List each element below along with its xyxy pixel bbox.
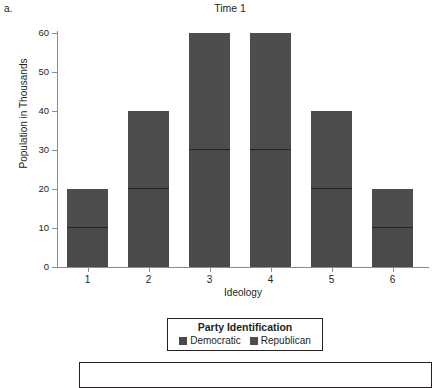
y-axis-tick: 30 — [0, 150, 57, 151]
bar-segment-democratic — [189, 150, 230, 267]
x-tick-label: 1 — [74, 274, 102, 285]
bar-group — [128, 33, 169, 267]
bar-segment-democratic — [67, 228, 108, 267]
x-tick-mark — [271, 267, 272, 272]
y-tick-label: 0 — [44, 260, 49, 273]
bar-group — [67, 33, 108, 267]
bar-segment-republican — [189, 33, 230, 150]
y-tick-label: 30 — [38, 143, 49, 156]
bar-segment-democratic — [128, 189, 169, 267]
legend: Party Identification DemocraticRepublica… — [167, 318, 323, 351]
bar-segment-democratic — [250, 150, 291, 267]
y-tick-label: 50 — [38, 65, 49, 78]
footer-note-box — [79, 362, 432, 388]
x-tick-mark — [88, 267, 89, 272]
bar-segment-republican — [250, 33, 291, 150]
bar-segment-democratic — [372, 228, 413, 267]
x-tick-mark — [149, 267, 150, 272]
y-axis-tick: 20 — [0, 189, 57, 190]
y-axis-tick: 10 — [0, 228, 57, 229]
bar-segment-republican — [67, 189, 108, 228]
legend-swatch-icon — [179, 337, 187, 345]
x-tick-label: 5 — [318, 274, 346, 285]
x-axis-title: Ideology — [57, 287, 429, 298]
y-axis-tick: 50 — [0, 72, 57, 73]
bar-group — [311, 33, 352, 267]
y-tick-label: 20 — [38, 182, 49, 195]
legend-entry: Republican — [250, 335, 311, 347]
x-axis-line — [57, 267, 429, 268]
chart-title: Time 1 — [0, 2, 438, 14]
bar-group — [189, 33, 230, 267]
y-axis-tick: 60 — [0, 33, 57, 34]
y-tick-label: 10 — [38, 221, 49, 234]
x-tick-label: 2 — [135, 274, 163, 285]
legend-items: DemocraticRepublican — [172, 335, 318, 347]
x-tick-label: 4 — [257, 274, 285, 285]
footer-note-text — [80, 363, 431, 367]
y-axis-tick: 40 — [0, 111, 57, 112]
legend-entry-label: Democratic — [190, 335, 241, 347]
x-tick-mark — [393, 267, 394, 272]
x-tick-label: 3 — [196, 274, 224, 285]
legend-entry-label: Republican — [261, 335, 311, 347]
bar-segment-republican — [372, 189, 413, 228]
y-axis-title: Population in Thousands — [18, 29, 29, 199]
bar-group — [250, 33, 291, 267]
legend-swatch-icon — [250, 337, 258, 345]
y-axis-tick: 0 — [0, 267, 57, 268]
y-tick-label: 60 — [38, 26, 49, 39]
x-tick-label: 6 — [379, 274, 407, 285]
legend-entry: Democratic — [179, 335, 241, 347]
y-tick-mark — [52, 267, 57, 268]
x-tick-mark — [210, 267, 211, 272]
bar-segment-republican — [311, 111, 352, 189]
bar-segment-democratic — [311, 189, 352, 267]
plot-area — [57, 33, 423, 267]
legend-title: Party Identification — [172, 321, 318, 334]
bar-group — [372, 33, 413, 267]
bar-segment-republican — [128, 111, 169, 189]
y-tick-label: 40 — [38, 104, 49, 117]
x-tick-mark — [332, 267, 333, 272]
